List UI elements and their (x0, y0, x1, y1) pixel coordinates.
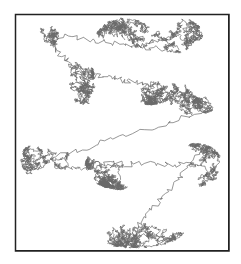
walk-cluster-left-strand (48, 39, 95, 104)
random-walk-path (0, 0, 241, 264)
frame-border (16, 15, 230, 252)
walk-cluster-center-middle (61, 157, 128, 190)
walk-cluster-top-center (97, 18, 149, 48)
walk-cluster-top-right (137, 19, 203, 53)
walk-cluster-center-upper (80, 72, 179, 105)
